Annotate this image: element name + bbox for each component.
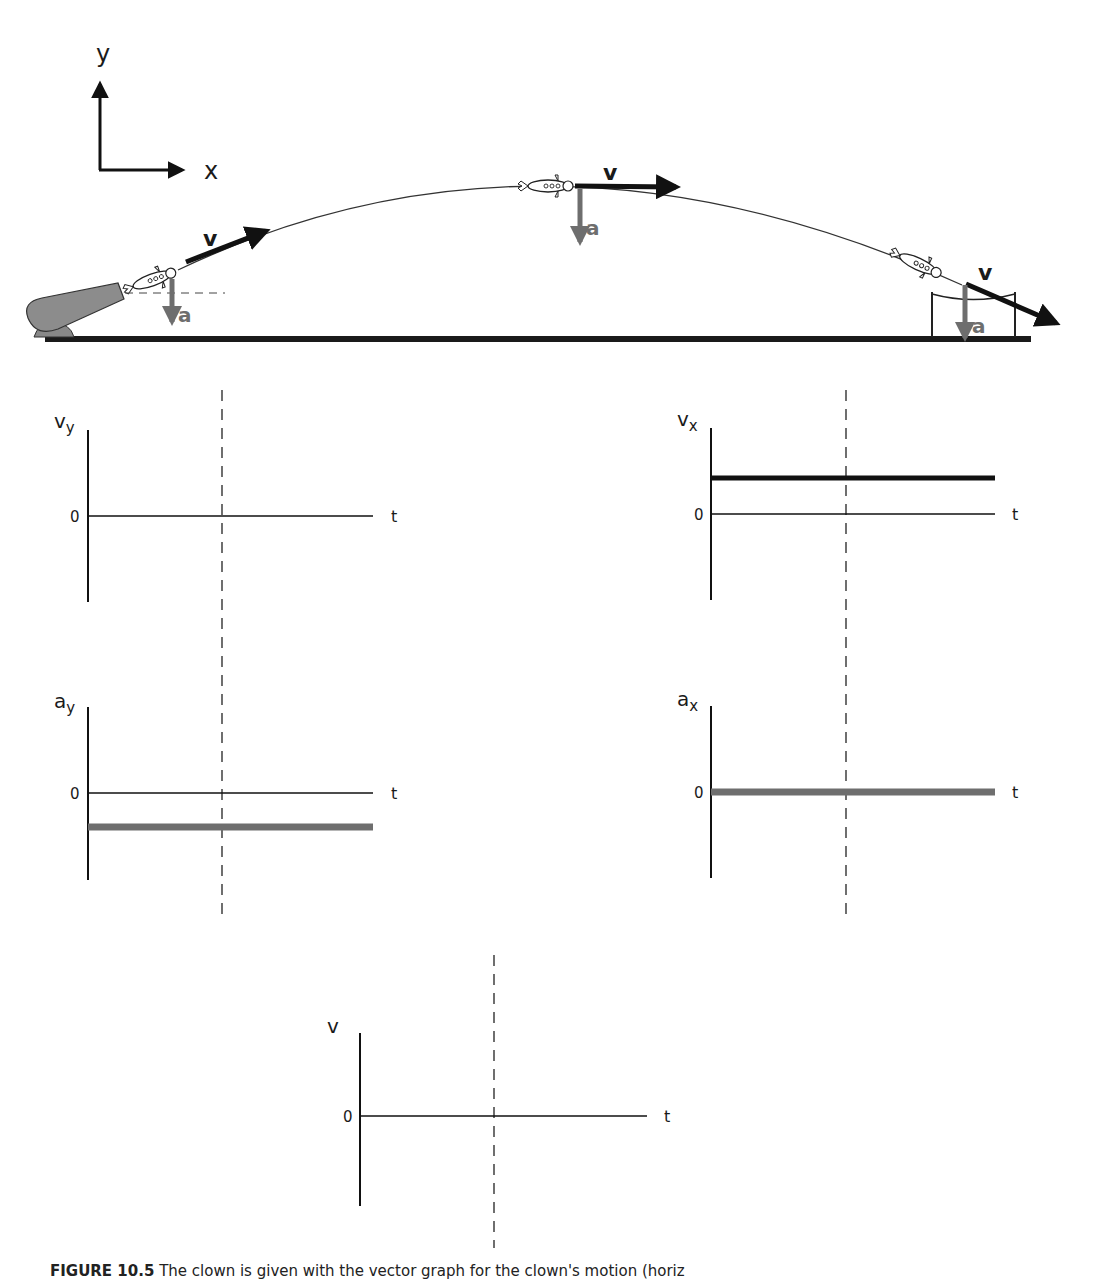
v-t-label: t: [664, 1107, 670, 1126]
velocity-arrow-apex: [575, 186, 676, 187]
acceleration-label-launch: a: [178, 303, 192, 327]
ax-label: a: [677, 687, 689, 711]
ax-t-label: t: [1012, 783, 1018, 802]
graph-v: v 0 t: [327, 1014, 670, 1206]
cannon-icon: [27, 283, 124, 337]
svg-text:ax: ax: [677, 687, 698, 715]
vy-t-label: t: [391, 507, 397, 526]
acceleration-label-apex: a: [586, 216, 600, 240]
x-axis-label: x: [204, 157, 218, 185]
vy-label: v: [54, 409, 66, 433]
graph-vx: vx 0 t: [677, 407, 1018, 600]
ay-label: a: [54, 689, 66, 713]
ax-zero-label: 0: [694, 784, 704, 802]
velocity-label-launch: v: [203, 226, 218, 251]
figure-caption: FIGURE 10.5 The clown is given with the …: [50, 1262, 1050, 1279]
v-label: v: [327, 1014, 339, 1038]
ay-zero-label: 0: [70, 785, 80, 803]
v-zero-label: 0: [343, 1108, 353, 1126]
clown-landing: v a: [886, 241, 1056, 338]
vx-label: v: [677, 407, 689, 431]
svg-text:ay: ay: [54, 689, 75, 717]
caption-text: The clown is given with the vector graph…: [159, 1262, 685, 1279]
vx-zero-label: 0: [694, 506, 704, 524]
coordinate-axes: y x: [96, 40, 218, 185]
svg-text:vx: vx: [677, 407, 698, 435]
graph-ay: ay 0 t: [54, 689, 397, 880]
velocity-label-landing: v: [978, 260, 993, 285]
ay-t-label: t: [391, 784, 397, 803]
y-axis-label: y: [96, 40, 110, 68]
clown-apex: v a: [518, 160, 676, 242]
velocity-label-apex: v: [603, 160, 618, 185]
projectile-motion-figure: y x v a v a v a: [0, 0, 1095, 1279]
svg-text:vy: vy: [54, 409, 75, 437]
clown-launch: v a: [120, 226, 266, 327]
trajectory-arc: [178, 186, 962, 285]
vx-t-label: t: [1012, 505, 1018, 524]
velocity-arrow-launch: [186, 231, 266, 262]
figure-number: FIGURE 10.5: [50, 1262, 154, 1279]
graph-ax: ax 0 t: [677, 687, 1018, 878]
vy-zero-label: 0: [70, 508, 80, 526]
acceleration-label-landing: a: [972, 314, 986, 338]
graph-vy: vy 0 t: [54, 409, 397, 602]
